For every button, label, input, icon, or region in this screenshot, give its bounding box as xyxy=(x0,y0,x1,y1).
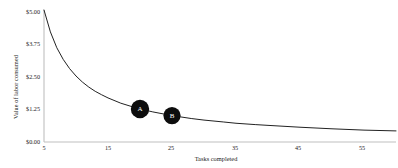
marker-b-label: B xyxy=(170,112,175,120)
plot-area: A B xyxy=(0,0,398,168)
marker-a-label: A xyxy=(137,105,142,113)
chart-screenshot: Value of labor consumed $5.00 $3.75 $2.5… xyxy=(0,0,398,168)
data-series-line xyxy=(44,10,396,131)
data-point-marker-a[interactable]: A xyxy=(131,100,149,118)
data-point-marker-b[interactable]: B xyxy=(163,107,180,124)
